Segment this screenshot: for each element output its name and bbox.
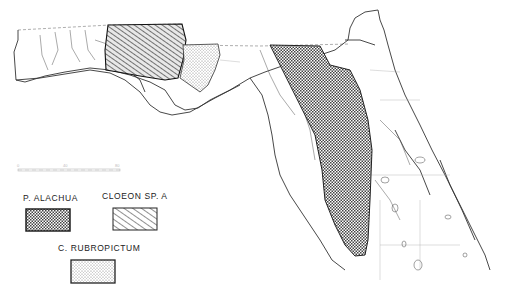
range-c-rubropictum [180,44,220,92]
coastline [14,10,490,270]
scale-bar [18,169,120,171]
legend-label-c-rubropictum: C. RUBROPICTUM [58,243,141,253]
swatch-c-rubropictum [71,260,115,283]
legend-label-cloeon-sp-a: CLOEON SP. A [102,191,168,201]
swatch-p-alachua [26,209,70,231]
swatch-cloeon-sp-a [113,208,157,230]
florida-map [0,0,511,307]
range-cloeon-sp-a [105,24,186,80]
scale-label-start: 0 [17,163,19,168]
scale-label-end: 80 [115,163,119,168]
legend-label-p-alachua: P. ALACHUA [23,193,78,203]
range-p-alachua [270,45,372,256]
scale-label-mid: 40 [63,163,67,168]
lakes [381,157,467,270]
